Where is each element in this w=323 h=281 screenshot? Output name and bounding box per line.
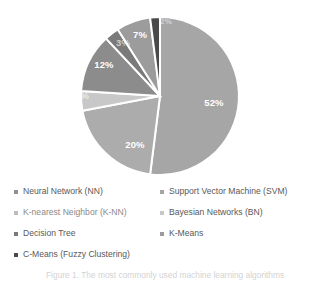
legend-marker-icon — [160, 232, 164, 236]
legend-marker-icon — [14, 232, 18, 236]
figure-caption-text: Figure 1. The most commonly used machine… — [46, 270, 284, 280]
legend-item-label: K-Means — [169, 229, 203, 238]
legend-marker-icon — [14, 190, 18, 194]
legend-marker-icon — [160, 190, 164, 194]
legend-item[interactable]: K-Means — [160, 223, 320, 244]
legend-item[interactable]: K-nearest Neighbor (K-NN) — [14, 202, 164, 223]
figure-caption: Figure 1. The most commonly used machine… — [0, 270, 323, 281]
chart-legend: Neural Network (NN)K-nearest Neighbor (K… — [0, 181, 323, 261]
legend-item-label: Support Vector Machine (SVM) — [169, 187, 287, 196]
pie-slice-label-cmeans: 2% — [160, 17, 172, 26]
legend-marker-icon — [14, 211, 18, 215]
pie-slice-label-kmeans: 7% — [133, 29, 147, 40]
pie-slice-label-dtree: 3% — [116, 37, 130, 48]
legend-item[interactable]: Bayesian Networks (BN) — [160, 202, 320, 223]
pie-slice-label-knn: 12% — [94, 59, 114, 70]
legend-column-right: Support Vector Machine (SVM)Bayesian Net… — [160, 181, 320, 244]
legend-column-left: Neural Network (NN)K-nearest Neighbor (K… — [14, 181, 164, 265]
pie-chart-svg: 52%20%4%12%3%7%2% — [0, 0, 323, 178]
legend-item[interactable]: C-Means (Fuzzy Clustering) — [14, 244, 164, 265]
legend-item-label: Neural Network (NN) — [23, 187, 103, 196]
legend-item-label: C-Means (Fuzzy Clustering) — [23, 250, 130, 259]
pie-slice-svm[interactable] — [150, 17, 239, 175]
legend-item[interactable]: Support Vector Machine (SVM) — [160, 181, 320, 202]
pie-chart-plot-area: 52%20%4%12%3%7%2% — [0, 0, 323, 178]
legend-item-label: K-nearest Neighbor (K-NN) — [23, 208, 127, 217]
pie-slice-label-bn: 4% — [75, 90, 89, 101]
legend-item-label: Decision Tree — [23, 229, 76, 238]
pie-chart-figure: 52%20%4%12%3%7%2% Neural Network (NN)K-n… — [0, 0, 323, 281]
legend-marker-icon — [160, 211, 164, 215]
pie-slice-label-svm: 52% — [204, 97, 224, 108]
legend-item[interactable]: Neural Network (NN) — [14, 181, 164, 202]
legend-item[interactable]: Decision Tree — [14, 223, 164, 244]
legend-item-label: Bayesian Networks (BN) — [169, 208, 263, 217]
pie-slice-label-nn: 20% — [125, 139, 145, 150]
legend-marker-icon — [14, 253, 18, 257]
